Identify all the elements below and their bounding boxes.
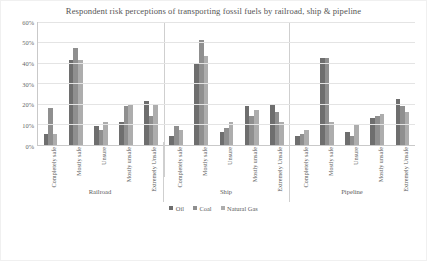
category-label-cell: Mostly unsafe — [365, 146, 390, 188]
gridline — [38, 124, 415, 125]
legend-label: Natural Gas — [227, 205, 258, 212]
bar[interactable] — [380, 114, 385, 145]
gridline — [38, 42, 415, 43]
category-label: Unsure — [352, 147, 359, 165]
legend-swatch-icon — [193, 206, 197, 210]
category-label: Unsure — [226, 147, 233, 165]
gridline — [38, 83, 415, 84]
category-label: Mostly safe — [201, 147, 208, 176]
bar[interactable] — [405, 112, 410, 145]
category-label: Extremely Unsafe — [276, 147, 283, 192]
gridline — [38, 104, 415, 105]
gridline — [38, 22, 415, 23]
legend-label: Oil — [176, 205, 184, 212]
category-axis-labels: Completely safeMostly safeUnsureMostly u… — [37, 146, 415, 188]
y-axis-tick-label: 10% — [22, 121, 34, 128]
group-label: Pipeline — [289, 188, 415, 202]
category-label-cell: Unsure — [213, 146, 238, 188]
category-label-cell: Completely safe — [37, 146, 62, 188]
category-label-group: Completely safeMostly safeUnsureMostly u… — [289, 146, 415, 188]
bar[interactable] — [329, 122, 334, 145]
legend-item[interactable]: Oil — [169, 205, 184, 212]
category-label-cell: Unsure — [339, 146, 364, 188]
chart-title: Respondent risk perceptions of transport… — [0, 0, 427, 18]
category-label: Unsure — [100, 147, 107, 165]
bar[interactable] — [229, 122, 234, 145]
category-label-cell: Mostly unsafe — [113, 146, 138, 188]
category-label: Completely safe — [302, 147, 309, 187]
group-label: Railroad — [37, 188, 163, 202]
y-axis-tick-label: 40% — [22, 59, 34, 66]
bar[interactable] — [179, 130, 184, 144]
y-axis-tick-label: 50% — [22, 39, 34, 46]
y-axis-tick-label: 60% — [22, 18, 34, 25]
chart-legend: OilCoalNatural Gas — [0, 205, 427, 212]
legend-label: Coal — [199, 205, 211, 212]
group-label: Ship — [163, 188, 289, 202]
bar[interactable] — [103, 122, 108, 145]
plot-area — [37, 22, 415, 146]
bar[interactable] — [279, 122, 284, 145]
legend-swatch-icon — [169, 206, 173, 210]
bar[interactable] — [254, 110, 259, 145]
category-label: Mostly safe — [327, 147, 334, 176]
category-label-cell: Extremely Unsafe — [390, 146, 415, 188]
category-label-cell: Mostly safe — [314, 146, 339, 188]
category-label: Mostly unsafe — [251, 147, 258, 182]
category-label: Mostly safe — [75, 147, 82, 176]
category-label-cell: Mostly safe — [62, 146, 87, 188]
category-label-cell: Unsure — [87, 146, 112, 188]
category-label-cell: Extremely Unsafe — [264, 146, 289, 188]
category-label: Extremely Unsafe — [402, 147, 409, 192]
category-label: Mostly unsafe — [125, 147, 132, 182]
category-label-cell: Mostly safe — [188, 146, 213, 188]
y-axis-tick-label: 30% — [22, 80, 34, 87]
category-label-cell: Completely safe — [163, 146, 188, 188]
plot-wrapper: 60%50%40%30%20%10%0% — [12, 22, 415, 146]
bar[interactable] — [53, 134, 58, 144]
category-label-group: Completely safeMostly safeUnsureMostly u… — [163, 146, 289, 188]
category-label-cell: Extremely Unsafe — [138, 146, 163, 188]
group-axis-labels: RailroadShipPipeline — [37, 188, 415, 202]
y-axis-tick-label: 20% — [22, 101, 34, 108]
category-label-cell: Mostly unsafe — [239, 146, 264, 188]
y-axis-tick-label: 0% — [25, 142, 34, 149]
category-label: Extremely Unsafe — [150, 147, 157, 192]
gridline — [38, 63, 415, 64]
category-label: Completely safe — [50, 147, 57, 187]
category-label: Completely safe — [176, 147, 183, 187]
category-label-group: Completely safeMostly safeUnsureMostly u… — [37, 146, 163, 188]
bar[interactable] — [304, 130, 309, 144]
legend-item[interactable]: Coal — [193, 205, 212, 212]
bar[interactable] — [204, 56, 209, 144]
chart-container: Respondent risk perceptions of transport… — [0, 0, 427, 261]
category-label-cell: Completely safe — [289, 146, 314, 188]
legend-swatch-icon — [221, 206, 225, 210]
bar[interactable] — [78, 60, 83, 144]
legend-item[interactable]: Natural Gas — [221, 205, 258, 212]
bar[interactable] — [354, 124, 359, 145]
category-label: Mostly unsafe — [377, 147, 384, 182]
y-axis: 60%50%40%30%20%10%0% — [12, 22, 36, 146]
